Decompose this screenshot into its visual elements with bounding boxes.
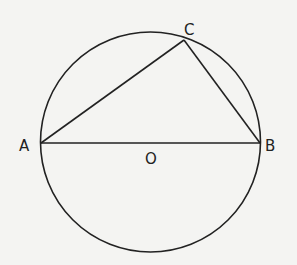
label-b: B xyxy=(265,137,275,155)
side-ac xyxy=(41,40,184,143)
label-c: C xyxy=(184,21,194,39)
geometry-diagram: A B C O xyxy=(0,0,297,265)
label-a: A xyxy=(19,137,30,155)
label-o: O xyxy=(145,150,157,168)
